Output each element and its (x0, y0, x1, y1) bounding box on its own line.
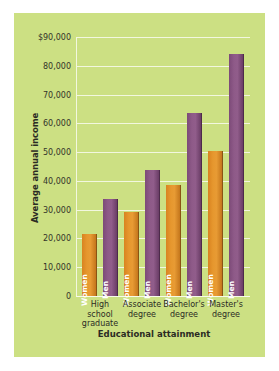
y-axis-tick-label: 20,000 (43, 234, 71, 243)
y-axis-tick-label: 30,000 (43, 205, 71, 214)
y-axis-tick-label: 10,000 (43, 263, 71, 272)
plot-left-rule (76, 37, 77, 296)
bar-series-label: Men (227, 281, 236, 299)
y-axis-title: Average annual income (30, 103, 40, 233)
y-axis-tick-label: 40,000 (43, 176, 71, 185)
x-axis-title: Educational attainment (54, 329, 254, 339)
bar-men[interactable]: Men (187, 113, 202, 296)
y-axis-tick-label: 80,000 (43, 61, 71, 70)
bar-group: WomenMen (124, 37, 160, 296)
y-axis-tick-label: 50,000 (43, 148, 71, 157)
bar-series-label: Men (185, 281, 194, 299)
bar-women[interactable]: Women (166, 185, 181, 296)
bar-men[interactable]: Men (145, 170, 160, 296)
bar-series-label: Men (101, 281, 110, 299)
x-axis-tick-label: Master'sdegree (197, 300, 255, 319)
y-axis-tick-label: 70,000 (43, 90, 71, 99)
bar-women[interactable]: Women (124, 212, 139, 296)
chart-figure: Average annual income 010,00020,00030,00… (14, 13, 265, 357)
y-axis-tick-label: 60,000 (43, 119, 71, 128)
bar-series-label: Men (143, 281, 152, 299)
bar-women[interactable]: Women (208, 151, 223, 296)
bar-group: WomenMen (82, 37, 118, 296)
y-axis-tick-label: $90,000 (38, 33, 71, 42)
bar-group: WomenMen (208, 37, 244, 296)
bar-men[interactable]: Men (103, 199, 118, 296)
bar-women[interactable]: Women (82, 234, 97, 296)
bar-men[interactable]: Men (229, 54, 244, 296)
plot-area: 010,00020,00030,00040,00050,00060,00070,… (76, 37, 250, 296)
bar-group: WomenMen (166, 37, 202, 296)
